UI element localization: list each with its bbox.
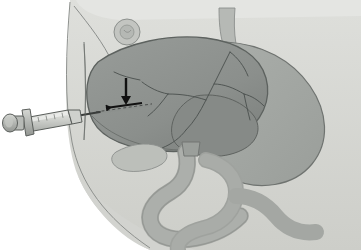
plunger-highlight [5,117,13,128]
pylorus [182,142,200,156]
illustration-canvas: Percutaneous needle injection into the l… [0,0,361,250]
anatomical-illustration [0,0,361,250]
esophagus [219,8,236,44]
umbilicus [114,19,140,45]
